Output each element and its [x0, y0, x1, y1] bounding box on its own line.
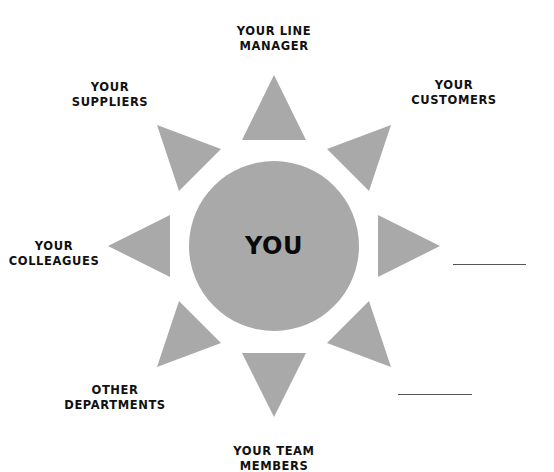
label-other-departments-line1: OTHER [64, 383, 166, 398]
label-suppliers-line1: YOUR [72, 80, 148, 95]
triangle-up-left [157, 125, 221, 191]
triangle-down [242, 353, 306, 417]
label-colleagues: YOUR COLLEAGUES [9, 239, 100, 269]
label-line-manager: YOUR LINE MANAGER [237, 24, 311, 54]
triangle-down-left [157, 301, 221, 367]
sun-diagram: YOU YOUR LINE MANAGER YOUR CUSTOMERS YOU… [0, 0, 554, 472]
label-suppliers: YOUR SUPPLIERS [72, 80, 148, 110]
label-customers-line1: YOUR [411, 78, 497, 93]
label-other-departments: OTHER DEPARTMENTS [64, 383, 166, 413]
center-label-you: YOU [245, 232, 303, 260]
blank-answer-line-bottom-right[interactable] [398, 394, 472, 395]
label-line-manager-line1: YOUR LINE [237, 24, 311, 39]
blank-answer-line-right[interactable] [453, 264, 526, 265]
triangle-down-right [327, 301, 391, 367]
label-customers-line2: CUSTOMERS [411, 93, 497, 108]
label-team-members-line1: YOUR TEAM [233, 444, 314, 459]
label-line-manager-line2: MANAGER [237, 39, 311, 54]
label-colleagues-line2: COLLEAGUES [9, 254, 100, 269]
triangle-up [242, 75, 306, 140]
label-colleagues-line1: YOUR [9, 239, 100, 254]
triangle-left [108, 215, 170, 277]
triangle-up-right [327, 125, 391, 191]
label-other-departments-line2: DEPARTMENTS [64, 398, 166, 413]
label-team-members: YOUR TEAM MEMBERS [233, 444, 314, 472]
label-team-members-line2: MEMBERS [233, 459, 314, 472]
label-customers: YOUR CUSTOMERS [411, 78, 497, 108]
label-suppliers-line2: SUPPLIERS [72, 95, 148, 110]
triangle-right [378, 215, 440, 277]
